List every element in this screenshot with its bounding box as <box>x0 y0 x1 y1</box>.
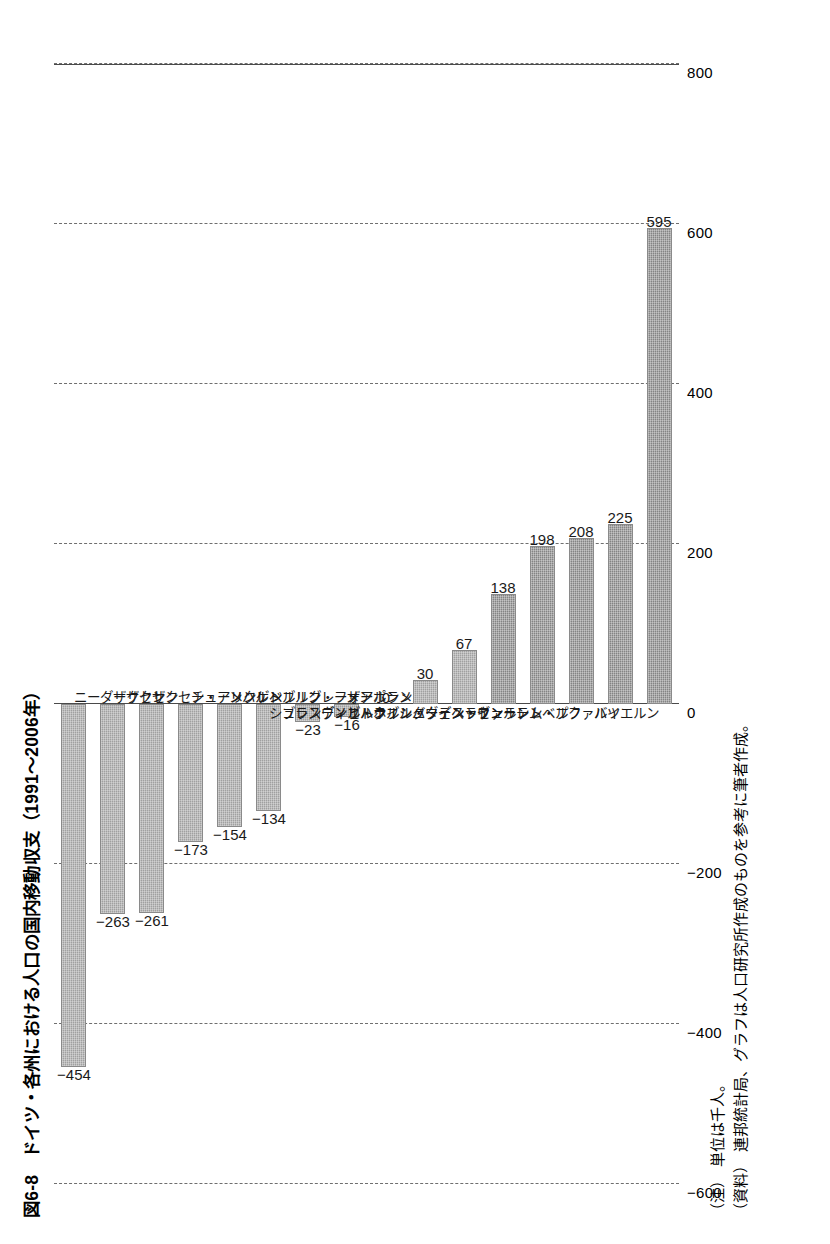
bar-group: −261ザクセン・アンハルト <box>132 64 171 1184</box>
bar-group: −134ベルリン <box>249 64 288 1184</box>
figure-page: 図6-8 ドイツ・各州における人口の国内移動収支（1991～2006年） −45… <box>0 0 830 1244</box>
y-tick-label: 800 <box>687 64 713 81</box>
bar <box>413 680 438 704</box>
bar-group: 225ラインラント・プファルツ <box>601 64 640 1184</box>
bar-group: 138ヘッセン <box>484 64 523 1184</box>
bar-value-label: −23 <box>295 721 320 738</box>
bar-value-label: −134 <box>252 810 286 827</box>
bar-group: 595バイエルン <box>640 64 679 1184</box>
bar <box>217 704 242 827</box>
bar-value-label: 225 <box>608 509 633 526</box>
bar-value-label: −454 <box>57 1066 91 1083</box>
bar <box>139 704 164 913</box>
y-tick-label: 400 <box>687 384 713 401</box>
bar <box>452 650 477 704</box>
bar <box>569 538 594 704</box>
page-title: 図6-8 ドイツ・各州における人口の国内移動収支（1991～2006年） <box>18 683 43 1218</box>
bar-group: 208バーデン・ヴュルテムベルク <box>562 64 601 1184</box>
bar <box>61 704 86 1067</box>
bar-group: −23ブレーメン <box>288 64 327 1184</box>
y-tick-label: 200 <box>687 544 713 561</box>
y-tick-label: 600 <box>687 224 713 241</box>
bar-value-label: −263 <box>96 913 130 930</box>
bar-group: 30ハンブルク <box>406 64 445 1184</box>
rotated-chart-canvas: 図6-8 ドイツ・各州における人口の国内移動収支（1991～2006年） −45… <box>0 0 830 1244</box>
footnote-note: （注）単位は千人。 <box>706 717 729 1218</box>
bar-group: 198ノルトライン・ヴェストファーレン <box>523 64 562 1184</box>
category-label: バイエルン <box>594 702 659 722</box>
footnote-source-tag: （資料） <box>729 1158 752 1218</box>
bar <box>178 704 203 842</box>
bar-group: −154メクレンブルク・フォアポンメルン <box>210 64 249 1184</box>
bar-value-label: −173 <box>174 841 208 858</box>
bar <box>608 524 633 704</box>
bar-value-label: 198 <box>530 530 555 547</box>
footnote-source: （資料）連邦統計局、グラフは人口研究所作成のものを参考に筆者作成。 <box>729 717 752 1218</box>
bar-value-label: 30 <box>417 665 434 682</box>
bar <box>647 228 672 704</box>
footnotes: （注）単位は千人。 （資料）連邦統計局、グラフは人口研究所作成のものを参考に筆者… <box>706 717 753 1218</box>
bar-value-label: −261 <box>135 911 169 928</box>
bar-value-label: 208 <box>569 522 594 539</box>
bar-value-label: −154 <box>213 826 247 843</box>
footnote-note-text: 単位は千人。 <box>709 1077 726 1167</box>
bar-group: −263ザクセン <box>93 64 132 1184</box>
bar-group: 67シュレスヴィヒ・ホルシュタイン <box>445 64 484 1184</box>
bar-value-label: 67 <box>456 635 473 652</box>
bars-layer: −454ニーダーザクセン−263ザクセン−261ザクセン・アンハルト−173チュ… <box>54 64 679 1184</box>
chart-plot-area: −454ニーダーザクセン−263ザクセン−261ザクセン・アンハルト−173チュ… <box>54 64 679 1184</box>
y-tick-label: 0 <box>687 704 696 721</box>
bar <box>100 704 125 914</box>
footnote-source-text: 連邦統計局、グラフは人口研究所作成のものを参考に筆者作成。 <box>732 717 749 1152</box>
bar <box>530 546 555 704</box>
bar-group: 0ブランデンブルク <box>367 64 406 1184</box>
bar-group: −16ザールラント <box>327 64 366 1184</box>
bar-value-label: 595 <box>647 213 672 230</box>
footnote-note-tag: （注） <box>706 1173 729 1218</box>
axis-spine <box>54 64 679 65</box>
bar-group: −454ニーダーザクセン <box>54 64 93 1184</box>
bar-value-label: 138 <box>491 578 516 595</box>
bar <box>491 594 516 704</box>
bar-group: −173チューリンゲン <box>171 64 210 1184</box>
